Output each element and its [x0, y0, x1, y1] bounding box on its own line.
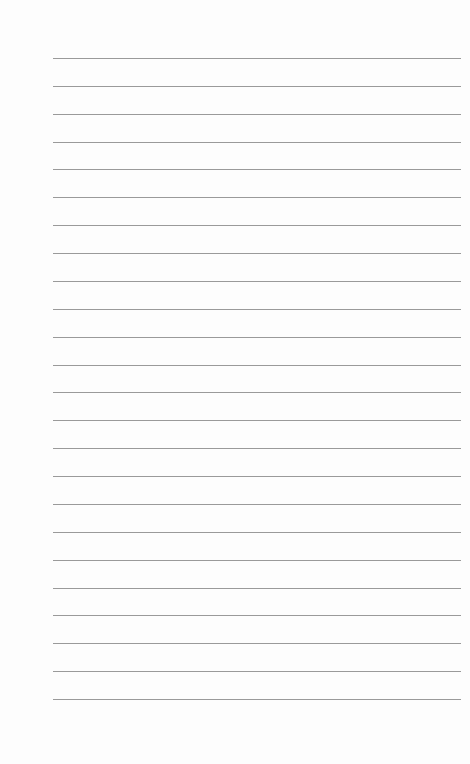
ruled-line	[53, 448, 461, 449]
ruled-line	[53, 253, 461, 254]
ruled-line	[53, 114, 461, 115]
ruled-line	[53, 197, 461, 198]
ruled-line	[53, 671, 461, 672]
ruled-line	[53, 615, 461, 616]
ruled-line	[53, 337, 461, 338]
ruled-line	[53, 225, 461, 226]
ruled-line	[53, 532, 461, 533]
ruled-line	[53, 392, 461, 393]
ruled-line	[53, 699, 461, 700]
lined-paper-sheet	[0, 0, 470, 764]
ruled-line	[53, 86, 461, 87]
ruled-line	[53, 365, 461, 366]
ruled-line	[53, 420, 461, 421]
ruled-line	[53, 504, 461, 505]
ruled-line	[53, 643, 461, 644]
ruled-line	[53, 281, 461, 282]
ruled-line	[53, 476, 461, 477]
ruled-line	[53, 142, 461, 143]
ruled-line	[53, 169, 461, 170]
ruled-line	[53, 560, 461, 561]
ruled-line	[53, 588, 461, 589]
ruled-line	[53, 58, 461, 59]
ruled-line	[53, 309, 461, 310]
